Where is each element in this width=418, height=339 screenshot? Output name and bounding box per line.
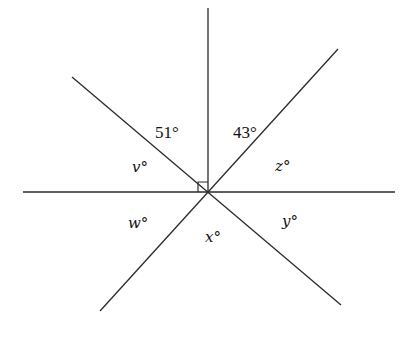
angle-label-w: w° (128, 214, 148, 232)
angle-label-x: x° (205, 228, 221, 246)
angle-label-51: 51° (155, 123, 179, 142)
angle-label-y: y° (281, 212, 298, 230)
angle-label-v: v° (132, 158, 148, 176)
angle-label-43: 43° (233, 123, 257, 142)
angle-diagram: 51° 43° v° z° w° x° y° (0, 0, 418, 339)
angle-label-z: z° (274, 157, 290, 175)
diagonal-line-ul-lr (72, 77, 341, 305)
